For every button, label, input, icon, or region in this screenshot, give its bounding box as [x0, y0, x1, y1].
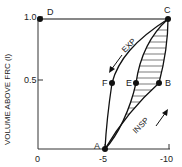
y-axis-label: VOLUME ABOVE FRC (l): [3, 54, 12, 145]
point-label-a: A: [94, 141, 100, 151]
insp-label: INSP: [131, 116, 151, 136]
y-tick-label-05: 0.5: [24, 75, 37, 85]
point-a: [102, 146, 108, 152]
x-tick-label-0: 0: [35, 154, 40, 164]
point-label-e: E: [126, 78, 132, 88]
y-tick-label-1: 1.0: [24, 12, 37, 22]
exp-arrow-head: [109, 66, 115, 73]
point-b: [156, 80, 162, 86]
point-d: [37, 16, 43, 22]
point-e: [133, 80, 139, 86]
exp-label: EXP: [120, 37, 138, 55]
point-label-f: F: [102, 78, 108, 88]
pressure-volume-diagram: 1.0 0.5 0 -5 -10 VOLUME ABOVE FRC (l) EX: [0, 0, 182, 167]
x-tick-label-10: -10: [160, 154, 173, 164]
point-label-b: B: [165, 78, 171, 88]
point-label-d: D: [47, 7, 54, 17]
point-f: [109, 80, 115, 86]
point-label-c: C: [164, 5, 171, 15]
point-c: [165, 16, 171, 22]
insp-arrow-head: [162, 109, 168, 116]
x-tick-label-5: -5: [99, 154, 107, 164]
